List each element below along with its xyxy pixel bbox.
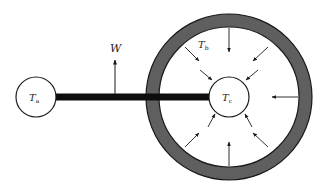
load-label: W [110,42,123,55]
rod [56,94,209,101]
heat-transfer-diagram: W Ta Tc Tb [0,0,317,181]
